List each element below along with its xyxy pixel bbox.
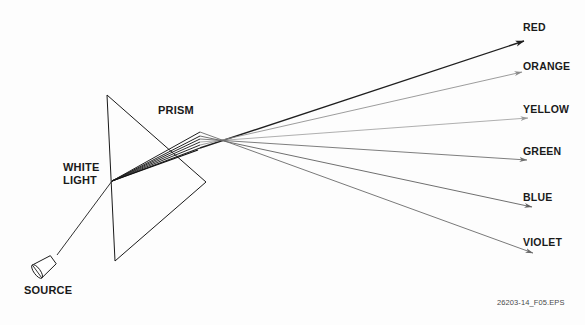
internal-ray-violet (112, 132, 200, 181)
figure-code-watermark: 26203-14_F05.EPS (497, 298, 564, 307)
prism-label: PRISM (158, 104, 194, 117)
spectrum-label-red: RED (523, 21, 546, 34)
light-source-icon (30, 253, 58, 280)
spectrum-label-violet: VIOLET (523, 236, 562, 249)
spectrum-ray-orange (200, 72, 522, 145)
internal-ray-blue (112, 136, 200, 181)
spectrum-label-green: GREEN (523, 145, 561, 158)
spectrum-label-blue: BLUE (523, 191, 552, 204)
spectrum-ray-yellow (200, 118, 528, 142)
spectrum-ray-red (200, 41, 524, 148)
prism-dispersion-figure: PRISM WHITE LIGHT SOURCE RED ORANGE YELL… (0, 0, 585, 325)
spectrum-ray-blue (200, 136, 532, 207)
internal-ray-edge (112, 150, 198, 181)
white-light-label-line1: WHITE (63, 161, 99, 173)
spectrum-ray-group (200, 41, 533, 253)
spectrum-label-orange: ORANGE (523, 60, 570, 73)
white-light-beam (57, 181, 112, 255)
source-label: SOURCE (24, 284, 72, 297)
spectrum-ray-violet (200, 132, 533, 253)
incident-ray-line (57, 181, 112, 255)
spectrum-label-yellow: YELLOW (523, 103, 569, 116)
internal-dispersion-fan (112, 132, 200, 181)
white-light-label-line2: LIGHT (63, 174, 97, 186)
white-light-label: WHITE LIGHT (63, 161, 99, 186)
